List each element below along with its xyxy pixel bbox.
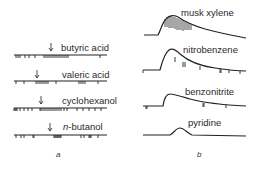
label-benzonitrite: benzonitrite bbox=[185, 87, 234, 97]
label-butanol-rest: -butanol bbox=[68, 121, 102, 132]
label-valeric-acid: valeric acid bbox=[62, 70, 110, 80]
trace-pyridine bbox=[143, 128, 246, 136]
arrow-icon bbox=[39, 96, 43, 104]
trace-musk-xylene bbox=[144, 16, 246, 38]
panel-label-a: a bbox=[56, 151, 60, 159]
label-nitrobenzene: nitrobenzene bbox=[183, 45, 238, 55]
label-n-butanol: n-butanol bbox=[63, 122, 103, 132]
arrow-icon bbox=[48, 123, 52, 131]
arrow-icon bbox=[49, 43, 53, 51]
panel-label-b: b bbox=[197, 151, 201, 159]
diagram-canvas bbox=[0, 0, 265, 170]
label-musk-xylene: musk xylene bbox=[181, 8, 234, 18]
label-butyric-acid: butyric acid bbox=[61, 43, 109, 53]
label-pyridine: pyridine bbox=[188, 118, 221, 128]
arrow-icon bbox=[35, 70, 39, 78]
label-cyclohexanol: cyclohexanol bbox=[62, 96, 117, 106]
